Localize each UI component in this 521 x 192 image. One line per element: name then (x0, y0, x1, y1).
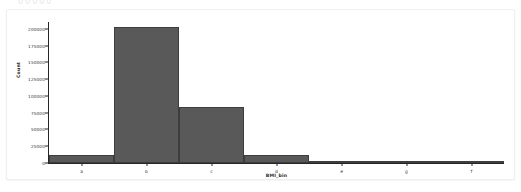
y-tick-label: 75000 (31, 110, 45, 115)
histogram-chart: Count 0250005000075000100000125000150000… (7, 10, 514, 179)
x-tick-mark (341, 163, 342, 166)
y-axis-ticks: 0250005000075000100000125000150000175000… (7, 10, 45, 179)
bar (244, 155, 309, 163)
y-tick-label: 150000 (28, 60, 45, 65)
y-tick-label: 50000 (31, 127, 45, 132)
bars-container (49, 22, 504, 163)
chart-card: Count 0250005000075000100000125000150000… (6, 9, 515, 180)
clipped-content-above-card: 00000 (0, 0, 521, 8)
y-tick-label: 100000 (28, 93, 45, 98)
x-tick-mark (211, 163, 212, 166)
y-tick-label: 25000 (31, 144, 45, 149)
x-tick-mark (81, 163, 82, 166)
x-tick-mark (146, 163, 147, 166)
y-tick-label: 200000 (28, 26, 45, 31)
x-axis-label: BMI_bin (49, 173, 504, 178)
bar (179, 107, 244, 163)
bar (49, 155, 114, 163)
x-tick-mark (276, 163, 277, 166)
page-bottom-margin (0, 181, 521, 192)
bar (114, 27, 179, 163)
x-tick-mark (471, 163, 472, 166)
screenshot-root: 00000 Count 0250005000075000100000125000… (0, 0, 521, 192)
y-tick-label: 125000 (28, 77, 45, 82)
clipped-text: 00000 (18, 0, 53, 6)
y-tick-label: 175000 (28, 43, 45, 48)
x-tick-mark (406, 163, 407, 166)
